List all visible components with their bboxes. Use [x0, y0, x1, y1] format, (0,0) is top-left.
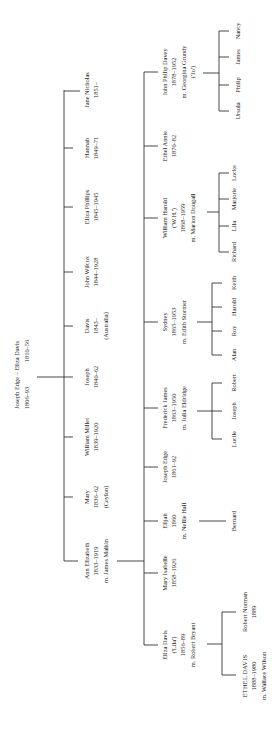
person-name: William Harold — [161, 197, 168, 238]
root-couple: Joseph Edge – Eliza Davis 1806–93 1810–5… — [13, 340, 64, 409]
person-name: Ursula — [234, 102, 241, 119]
person-spouse: m. Georgina Grundy — [180, 45, 187, 99]
person-spouse: m. Marion Dougall — [189, 193, 196, 242]
gen1-john-wilcox: John Wilcox 1844–1928 — [64, 255, 99, 288]
person-name: Frederick James — [161, 387, 168, 429]
person-note: (Ceylon) — [102, 486, 110, 509]
gen1-william-millet: William Millet 1839–1920 — [64, 418, 99, 456]
person-name: Ann Elizabeth — [83, 542, 90, 580]
person-dates: 1861–92 — [170, 456, 177, 478]
person-dates: 1856–89 — [179, 634, 186, 656]
gen1-jane-nicholas: Jane Nicholas 1851– — [64, 72, 99, 108]
person-spouse: m. Julia Eldridge — [180, 386, 187, 430]
gen2-eliza-davis: Eliza Davis ('Lila') 1856–89 m. Robert B… — [144, 623, 222, 668]
person-name: Roy — [230, 325, 237, 336]
gen2-william-harold: William Harold ('W.H.') 1868–1959 m. Mar… — [144, 193, 219, 242]
gen1-hannah: Hannah 1849–71 — [64, 137, 99, 159]
gen2-sydney: Sydney 1865–1953 m. Edith Stormer — [144, 299, 212, 344]
gen1-joseph: Joseph 1840–62 — [64, 366, 99, 388]
person-dates: 1865–1953 — [170, 308, 177, 337]
person-dates: 1868–1959 — [179, 204, 186, 233]
person-name: Joseph — [83, 368, 90, 386]
person-name: Eliza Davis — [161, 630, 168, 660]
gen1-ann-elizabeth: Ann Elizabeth 1833–1919 m. James Malkin — [64, 538, 144, 583]
person-dates: 1870–82 — [170, 135, 177, 157]
person-dates: 1878–1952 — [170, 58, 177, 87]
person-name: James — [234, 49, 241, 65]
person-name: Joseph Edge — [161, 451, 168, 483]
gen3-sydney-children: Alan Roy Harold Keith — [212, 275, 237, 361]
person-spouse: m. Nellie Hall — [180, 503, 187, 540]
person-dates: 1889 — [250, 606, 257, 619]
person-spouse: m. James Malkin — [102, 538, 109, 583]
person-dates: 1840–62 — [92, 366, 99, 388]
person-name: Harold — [230, 297, 237, 316]
person-dates: 1860 — [170, 515, 177, 528]
gen2-ethel-annie: Ethel Annie 1870–82 — [144, 131, 177, 162]
gen3-bryant-children: ETHEL DAVIS 1888–1980 m. Wallace Wilson … — [222, 591, 267, 700]
person-name: Bernard — [230, 510, 237, 531]
root-names: Joseph Edge – Eliza Davis — [13, 340, 20, 409]
person-name: Joseph — [230, 402, 237, 420]
gen2-john-philip-davey: John Philip Davey 1878–1952 m. Georgina … — [144, 45, 219, 99]
person-name: Lila — [230, 221, 237, 231]
person-dates: 1833–1919 — [92, 547, 99, 576]
person-name: Davis — [83, 318, 90, 333]
gen1-davis: Davis 1843– (Australia) — [64, 312, 110, 340]
person-note: (Australia) — [102, 312, 110, 340]
person-name: Alan — [230, 348, 237, 361]
person-name: Lucile — [230, 431, 237, 447]
person-dates: 1843– — [92, 317, 99, 334]
gen3-william-children: Richard Lila Marjorie Locke — [219, 165, 237, 262]
person-name: Elijah — [161, 513, 168, 529]
person-name: Mary Isabelle — [161, 555, 168, 590]
gen3-john-children: Ursula Philip James Nancy — [219, 22, 241, 120]
person-spouse: m. Wallace Wilson — [260, 651, 267, 700]
person-name: Eliza Phillips — [83, 189, 90, 224]
person-name: Marjorie — [230, 188, 237, 211]
person-name: Robert Norman — [241, 591, 248, 632]
person-name: William Millet — [83, 418, 90, 456]
gen2-joseph-edge: Joseph Edge 1861–92 — [144, 451, 177, 483]
person-name: Locke — [230, 165, 237, 181]
person-name: Sydney — [161, 312, 168, 332]
person-dates: 1845–1945 — [92, 193, 99, 222]
person-name: ETHEL DAVIS — [241, 655, 248, 698]
person-spouse: m. Robert Bryant — [189, 623, 196, 668]
person-dates: 1849–71 — [92, 137, 99, 159]
person-dates: 1839–1920 — [92, 423, 99, 452]
person-name: John Wilcox — [83, 255, 90, 288]
person-dates: 1836–62 — [92, 486, 99, 508]
person-dates: 1888–1980 — [250, 662, 257, 691]
person-name: Keith — [230, 275, 237, 290]
person-name: John Philip Davey — [161, 48, 168, 96]
person-dates: 1863–1950 — [170, 394, 177, 423]
person-dates: 1851– — [92, 81, 99, 98]
gen2-mary-isabelle: Mary Isabelle 1858–1926 — [144, 555, 177, 590]
person-name: Jane Nicholas — [83, 72, 90, 108]
person-dates: 1844–1928 — [92, 258, 99, 287]
root-husband-dates: 1806–93 — [23, 387, 30, 409]
person-spouse-nickname: ('Jo') — [189, 66, 197, 78]
person-dates: 1858–1926 — [170, 559, 177, 588]
gen3-elijah-children: Bernard — [230, 510, 237, 531]
person-name: Mary — [83, 489, 90, 504]
person-nickname: ('W.H.') — [170, 208, 178, 228]
gen2-frederick-james: Frederick James 1863–1950 m. Julia Eldri… — [144, 386, 212, 430]
gen1-mary: Mary 1836–62 (Ceylon) — [64, 486, 110, 509]
family-tree-diagram: Joseph Edge – Eliza Davis 1806–93 1810–5… — [0, 0, 277, 739]
gen3-frederick-children: Lucile Joseph Robert — [212, 374, 237, 447]
person-name: Nancy — [234, 22, 241, 39]
person-name: Philip — [234, 77, 241, 92]
person-name: Richard — [230, 241, 237, 262]
gen2-elijah: Elijah 1860 m. Nellie Hall — [144, 503, 226, 540]
person-nickname: ('Lila') — [170, 637, 178, 654]
person-name: Ethel Annie — [161, 131, 168, 162]
person-spouse: m. Edith Stormer — [180, 299, 187, 344]
person-name: Hannah — [83, 137, 90, 158]
root-wife-dates: 1810–56 — [23, 340, 30, 362]
gen1-eliza-phillips: Eliza Phillips 1845–1945 — [64, 189, 99, 224]
person-name: Robert — [230, 374, 237, 392]
